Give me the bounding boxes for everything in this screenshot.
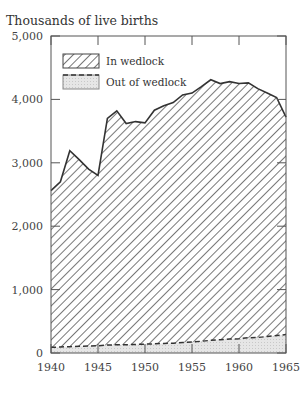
x-tick-label: 1940 [37, 361, 65, 374]
plot-area [51, 80, 286, 353]
x-tick-label: 1950 [131, 361, 159, 374]
y-tick-label: 3,000 [12, 157, 44, 170]
y-tick-label: 5,000 [12, 30, 44, 43]
y-tick-label: 4,000 [12, 93, 44, 106]
y-tick-label: 1,000 [12, 284, 44, 297]
births-area-chart: 01,0002,0003,0004,0005,00019401945195019… [0, 0, 308, 393]
y-tick-label: 2,000 [12, 220, 44, 233]
legend-swatch-out-of-wedlock [63, 75, 99, 89]
x-tick-label: 1960 [225, 361, 253, 374]
legend-swatch-in-wedlock [63, 54, 99, 68]
legend-label-out-of-wedlock: Out of wedlock [106, 76, 187, 88]
legend: In wedlock Out of wedlock [63, 54, 187, 89]
x-tick-label: 1965 [272, 361, 300, 374]
legend-label-in-wedlock: In wedlock [106, 55, 165, 67]
x-tick-label: 1955 [178, 361, 206, 374]
x-tick-label: 1945 [84, 361, 112, 374]
y-tick-label: 0 [36, 347, 43, 360]
area-in-wedlock [51, 80, 286, 353]
